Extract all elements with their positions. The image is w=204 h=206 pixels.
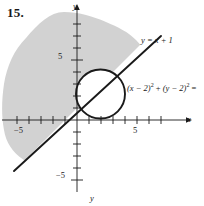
line-equation-text: y = x + 1: [141, 35, 173, 45]
circle-equation-label: (x − 2)2 + (y − 2)2 =: [127, 84, 196, 93]
line-equation-label: y = x + 1: [141, 36, 173, 45]
y-axis-name-label-top: y: [73, 2, 77, 11]
circle-equation-part1: (x − 2): [127, 83, 151, 93]
y-axis-name-label-bottom: y: [90, 194, 94, 203]
x-axis-tick-label-negative-5: −5: [14, 126, 23, 135]
graph-figure: [0, 0, 204, 206]
y-axis-tick-label-negative-5: −5: [56, 171, 65, 180]
x-axis-tick-label-positive-5: 5: [133, 126, 137, 135]
circle-equation-part2: (y − 2): [163, 83, 187, 93]
circle-equation-tail: =: [189, 83, 196, 93]
shaded-region: [0, 0, 204, 206]
x-axis-name-label: x: [187, 115, 191, 124]
y-axis-tick-label-positive-5: 5: [58, 52, 62, 61]
problem-number: 15.: [7, 6, 24, 19]
circle-equation-plus: +: [154, 83, 163, 93]
